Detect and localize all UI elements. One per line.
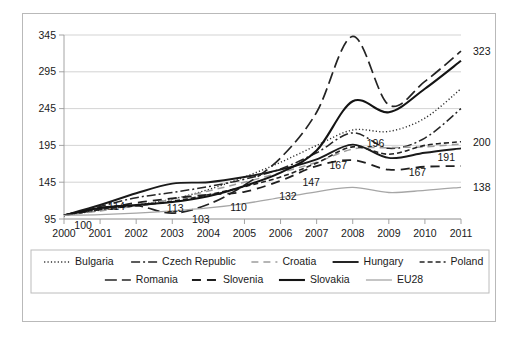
chart-frame: 9514519524529534520002001200220032004200… [22, 13, 496, 322]
data-point-label: 110 [230, 201, 247, 213]
legend-item-hungary[interactable]: Hungary [333, 255, 404, 267]
x-axis-tick-label: 2000 [52, 227, 76, 239]
data-point-label: 147 [302, 176, 320, 188]
data-point-label: 200 [473, 136, 491, 148]
legend-label: Romania [136, 273, 178, 285]
data-point-label: 167 [409, 166, 427, 178]
legend-label: Bulgaria [75, 255, 114, 267]
y-axis-tick-label: 95 [44, 213, 56, 225]
y-axis-tick-label: 345 [38, 29, 56, 41]
data-point-label: 132 [279, 190, 297, 202]
line-chart: 9514519524529534520002001200220032004200… [23, 14, 497, 323]
x-axis-tick-label: 2001 [88, 227, 112, 239]
y-axis-tick-label: 245 [38, 102, 56, 114]
legend-item-czech-republic[interactable]: Czech Republic [131, 255, 236, 267]
legend-label: Slovenia [223, 273, 263, 285]
chart-plot-area: 9514519524529534520002001200220032004200… [23, 14, 497, 323]
x-axis-tick-label: 2005 [233, 227, 257, 239]
x-axis-tick-label: 2004 [197, 227, 221, 239]
data-point-label: 138 [473, 181, 491, 193]
x-axis-tick-label: 2002 [125, 227, 149, 239]
data-point-label: 191 [438, 151, 456, 163]
x-axis-tick-label: 2010 [413, 227, 437, 239]
data-point-label: 100 [74, 219, 92, 231]
data-point-label: 103 [192, 213, 210, 225]
data-point-label: 167 [329, 159, 347, 171]
legend-label: Czech Republic [162, 255, 236, 267]
legend-item-croatia[interactable]: Croatia [251, 255, 316, 267]
x-axis-tick-label: 2011 [450, 227, 473, 239]
legend-label: Hungary [364, 255, 404, 267]
series-line-romania [64, 36, 461, 215]
legend-item-bulgaria[interactable]: Bulgaria [44, 255, 114, 267]
data-point-label: 113 [167, 202, 184, 214]
legend-label: EU28 [397, 273, 423, 285]
y-axis-tick-label: 295 [38, 65, 56, 77]
legend-item-slovenia[interactable]: Slovenia [192, 273, 263, 285]
x-axis-tick-label: 2007 [305, 227, 329, 239]
x-axis-tick-label: 2009 [377, 227, 401, 239]
y-axis-tick-label: 145 [38, 176, 56, 188]
legend-item-slovakia[interactable]: Slovakia [279, 273, 350, 285]
x-axis-tick-label: 2006 [269, 227, 293, 239]
legend-label: Slovakia [310, 273, 350, 285]
data-point-label: 196 [367, 137, 385, 149]
legend-item-romania[interactable]: Romania [105, 273, 178, 285]
x-axis-tick-label: 2003 [161, 227, 185, 239]
data-point-label: 114 [108, 200, 125, 212]
legend-item-poland[interactable]: Poland [420, 255, 484, 267]
legend-item-eu28[interactable]: EU28 [366, 273, 423, 285]
data-point-label: 323 [473, 45, 491, 57]
y-axis-tick-label: 195 [38, 139, 56, 151]
legend-label: Croatia [282, 255, 316, 267]
legend-label: Poland [451, 255, 484, 267]
x-axis-tick-label: 2008 [341, 227, 365, 239]
